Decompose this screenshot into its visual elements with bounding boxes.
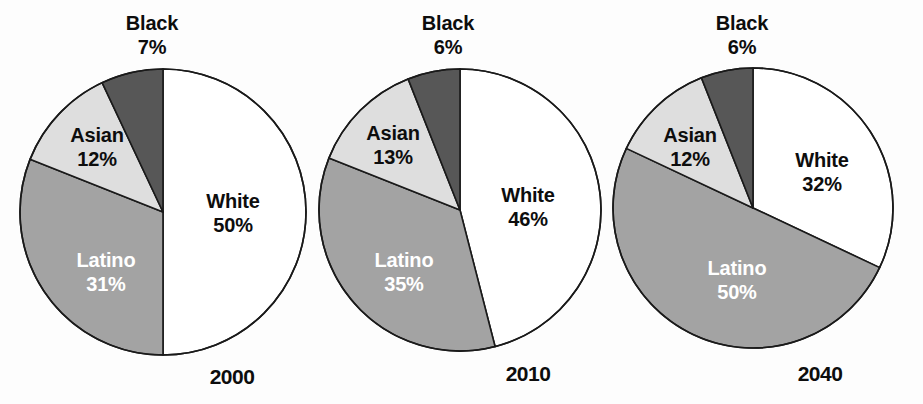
slice-label-name: White [795, 149, 848, 171]
slice-label-latino: Latino50% [708, 256, 767, 305]
pie-chart-figure: White50%Latino31%Asian12%Black7%2000Whit… [0, 0, 923, 404]
slice-label-percent: 32% [795, 172, 848, 196]
pie-chart-2040: White32%Latino50%Asian12%Black6%2040 [0, 0, 923, 404]
slice-label-asian: Asian12% [663, 123, 716, 172]
year-label-2040: 2040 [798, 362, 843, 386]
slice-label-black: Black6% [716, 11, 768, 60]
slice-label-name: Latino [708, 257, 767, 279]
slice-label-name: Black [716, 12, 768, 34]
slice-label-name: Asian [663, 124, 716, 146]
slice-label-percent: 50% [708, 280, 767, 304]
slice-label-white: White32% [795, 148, 848, 197]
pie-slices-2040 [0, 0, 923, 404]
slice-label-percent: 12% [663, 147, 716, 171]
slice-label-percent: 6% [716, 35, 768, 59]
